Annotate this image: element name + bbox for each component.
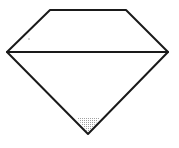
gem-diagram — [0, 0, 179, 148]
crown-trapezoid — [7, 10, 168, 52]
diagram-canvas — [0, 0, 179, 148]
stray-mark — [28, 38, 29, 39]
